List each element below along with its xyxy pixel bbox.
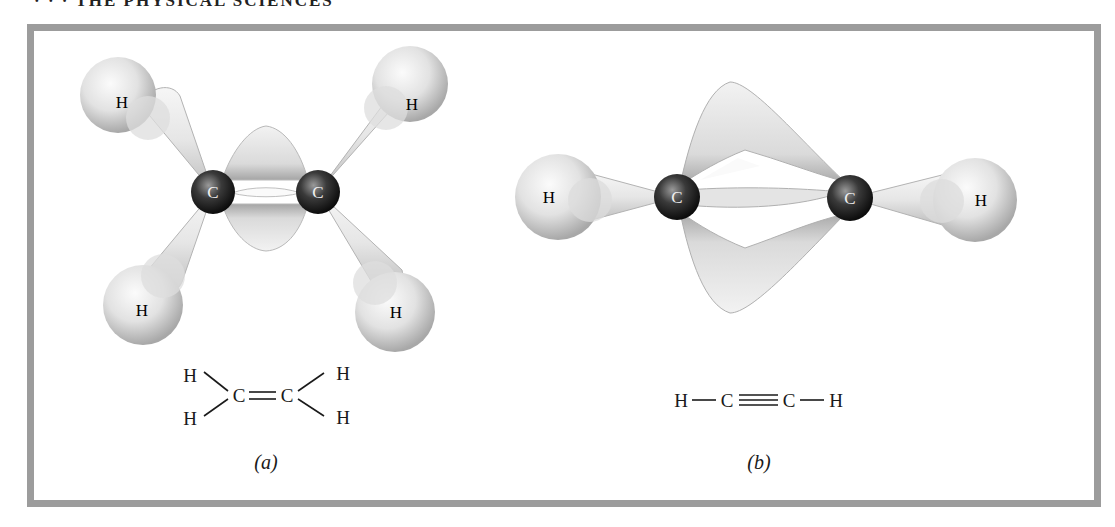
svg-text:H: H [116, 93, 128, 112]
caption-a: (a) [254, 451, 278, 474]
svg-text:H: H [406, 95, 418, 114]
svg-text:H: H [336, 407, 350, 428]
svg-text:C: C [721, 390, 734, 411]
h-atom-left-b: H [515, 154, 612, 240]
svg-text:H: H [183, 365, 197, 386]
orbital-diagram: H H H H C C H H [0, 0, 1115, 527]
svg-text:H: H [183, 408, 197, 429]
h-atom-lower-left: H [103, 254, 185, 345]
svg-text:C: C [671, 188, 682, 207]
structural-formula-b: H C C H [674, 390, 843, 411]
svg-text:C: C [207, 183, 218, 202]
pi-orbital-lower-b [680, 212, 845, 313]
svg-text:H: H [390, 303, 402, 322]
svg-text:C: C [312, 183, 323, 202]
caption-b: (b) [747, 451, 771, 474]
h-atom-lower-right: H [353, 261, 435, 352]
h-atom-right-b: H [920, 158, 1017, 242]
svg-text:H: H [136, 301, 148, 320]
structural-formula-a: H H C C H H [183, 363, 350, 429]
c-atom-right-b: C [827, 175, 873, 221]
svg-text:H: H [674, 390, 688, 411]
svg-text:H: H [543, 188, 555, 207]
panel-a: H H H H C C H H [80, 46, 448, 474]
pi-orbital-upper-b [680, 82, 845, 185]
panel-b: H H C C H C C H (b) [515, 82, 1017, 474]
c-atom-left-a: C [191, 170, 235, 214]
svg-text:C: C [281, 385, 294, 406]
svg-text:H: H [975, 191, 987, 210]
c-atom-left-b: C [654, 174, 700, 220]
svg-text:H: H [829, 390, 843, 411]
c-atom-right-a: C [296, 170, 340, 214]
h-atom-upper-right: H [364, 46, 448, 130]
svg-text:C: C [783, 390, 796, 411]
svg-text:H: H [336, 363, 350, 384]
svg-text:C: C [233, 385, 246, 406]
svg-text:C: C [844, 189, 855, 208]
sigma-bond-cc [686, 188, 842, 207]
pi-orbital-a [222, 126, 308, 251]
h-atom-upper-left: H [80, 57, 170, 140]
